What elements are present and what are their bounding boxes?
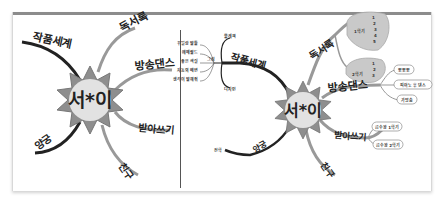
left-mind-map: 서*이 작품세계 독서록 방송댄스 받아쓰기 친구 양궁: [22, 8, 175, 182]
branch-label-works: 작품세계: [229, 50, 267, 71]
sub-label-reading-0: 1학기: [354, 28, 365, 34]
semester1-item: 4: [374, 33, 377, 38]
sub-label-dance-2: 가방춤: [401, 97, 413, 103]
center-label: 서*이: [68, 89, 112, 111]
semester1-item: 3: [374, 27, 377, 32]
sub-label-reading-1: 2학기: [352, 71, 363, 77]
semester1-item: 5: [373, 39, 376, 44]
sub-label-dance-0: 뽀뽀뽀: [398, 68, 410, 73]
branch-label-reading: 독서록: [307, 37, 336, 61]
drawing-item: 자동의 배변: [177, 67, 198, 73]
semester1-item: 2: [373, 21, 376, 26]
center-label: 서*이: [284, 101, 322, 120]
sub-label-dictation-1: 급수왕 2학기: [376, 142, 400, 148]
branch-label-reading: 독서록: [117, 8, 150, 34]
branch-label-dictation: 받아쓰기: [334, 129, 367, 142]
branch-dance: [115, 70, 172, 90]
sub-label-works-2: 디자인: [224, 86, 236, 92]
sub-label-works-1: 그림: [207, 56, 215, 62]
branch-label-friend: 친구: [116, 160, 136, 182]
branch-label-dictation: 받아쓰기: [138, 121, 175, 136]
drawing-item: 꾸밀랑 말들: [177, 40, 198, 46]
branch-label-dance: 방송댄스: [327, 78, 368, 95]
drawing-item: 좋은 색칠: [181, 58, 198, 64]
semester1-item: 1: [372, 15, 375, 20]
right-mind-map: 물레책 그림 디자인 꾸밀랑 말들 에메랄드 좋은 색칠 자동의 배변 생각이 …: [173, 12, 432, 179]
sub-label-dictation-0: 급수왕 1학기: [375, 124, 399, 130]
drawing-item: 에메랄드: [182, 49, 198, 55]
sub-label-works-0: 물레책: [224, 33, 236, 39]
semester2-item: 1: [372, 61, 375, 66]
branch-reading: [98, 28, 135, 72]
branch-label-archery: 양궁: [251, 139, 269, 155]
semester2-item: 2: [373, 67, 376, 72]
branch-label-works: 작품세계: [31, 29, 73, 51]
sub-label-dance-1: 피아노 후 댄스: [400, 82, 427, 88]
mind-map-canvas: 서*이 작품세계 독서록 방송댄스 받아쓰기 친구 양궁 물레책 그림 디자인 …: [0, 0, 441, 200]
drawing-item: 생각이 말해줘: [173, 76, 198, 82]
sub-label-archery-0: 전학: [214, 147, 222, 153]
semester2-item: 3: [372, 73, 375, 78]
